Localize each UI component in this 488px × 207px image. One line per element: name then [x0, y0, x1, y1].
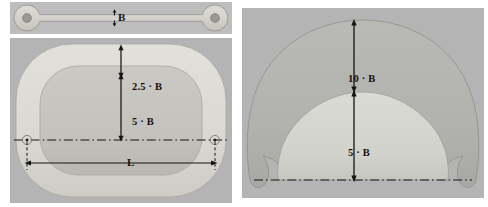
dimension-label-l: L	[127, 156, 135, 168]
dome-panel: 10 · B 5 · B	[242, 8, 484, 198]
dimension-label-5b-right: 5 · B	[348, 147, 370, 158]
right-figure-column: 10 · B 5 · B	[240, 0, 488, 207]
figure-root: B	[0, 0, 488, 207]
left-figure-column: B	[0, 0, 236, 207]
racetrack-panel: 2.5 · B 5 · B L	[10, 38, 232, 203]
racetrack-drawing	[10, 38, 232, 203]
strip-hole-right	[211, 14, 220, 23]
dimension-label-2-5b: 2.5 · B	[132, 81, 162, 92]
strip-hole-left	[23, 14, 32, 23]
dogbone-specimen-panel: B	[10, 2, 232, 34]
dimension-label-5b-left: 5 · B	[132, 116, 154, 127]
dimension-label-10b: 10 · B	[348, 73, 375, 84]
dimension-label-b: B	[118, 11, 126, 23]
dome-drawing	[242, 8, 484, 198]
